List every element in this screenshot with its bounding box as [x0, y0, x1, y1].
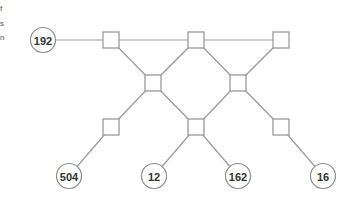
square-node [103, 119, 119, 135]
circle-node-label: 12 [148, 171, 160, 183]
circle-node-label: 192 [34, 35, 52, 47]
circle-node-label: 162 [229, 171, 247, 183]
circle-node-192: 192 [31, 28, 56, 53]
square-node [273, 119, 289, 135]
circle-node-label: 504 [60, 171, 79, 183]
square-node [188, 119, 204, 135]
square-node-layer [103, 32, 289, 135]
square-node [188, 32, 204, 48]
network-diagram: 1925041216216 [0, 0, 342, 209]
square-node [103, 32, 119, 48]
square-node [273, 32, 289, 48]
circle-node-16: 16 [311, 164, 336, 189]
square-node [230, 75, 246, 91]
circle-node-layer: 1925041216216 [31, 28, 336, 189]
circle-node-label: 16 [317, 171, 329, 183]
square-node [145, 75, 161, 91]
circle-node-504: 504 [57, 164, 82, 189]
circle-node-12: 12 [142, 164, 167, 189]
circle-node-162: 162 [226, 164, 251, 189]
edge-layer [43, 40, 323, 176]
